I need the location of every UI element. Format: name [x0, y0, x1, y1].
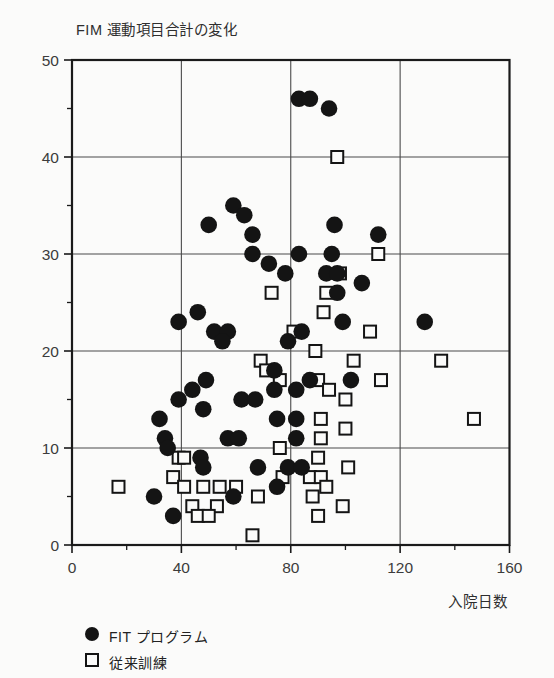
svg-text:0: 0: [50, 537, 59, 554]
svg-text:80: 80: [282, 559, 300, 576]
svg-text:120: 120: [387, 559, 413, 576]
legend-item-fit-program: FIT プログラム: [84, 623, 208, 649]
legend-item-conventional-training: 従来訓練: [84, 649, 208, 675]
svg-text:160: 160: [497, 559, 523, 576]
x-axis-label: 入院日数: [448, 590, 508, 611]
svg-text:10: 10: [42, 440, 60, 457]
svg-text:20: 20: [42, 343, 60, 360]
svg-text:40: 40: [42, 149, 60, 166]
scatter-plot-svg: 0408012016001020304050: [0, 0, 554, 678]
scatter-chart-page: FIM 運動項目合計の変化 0408012016001020304050 入院日…: [0, 0, 554, 678]
filled-circle-icon: [84, 627, 99, 645]
svg-text:0: 0: [68, 559, 77, 576]
legend-label-conventional-training: 従来訓練: [109, 652, 167, 672]
svg-text:50: 50: [42, 52, 60, 69]
legend-label-fit-program: FIT プログラム: [109, 626, 208, 646]
svg-text:30: 30: [42, 246, 60, 263]
legend: FIT プログラム 従来訓練: [84, 623, 208, 675]
svg-text:40: 40: [173, 559, 191, 576]
open-square-icon: [84, 653, 99, 671]
